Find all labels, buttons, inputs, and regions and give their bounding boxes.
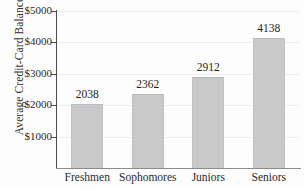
bar-chart: Average Credit-Card Balance $1000$2000$3… bbox=[0, 0, 304, 188]
y-axis-tick-label: $1000 bbox=[6, 130, 52, 142]
bar-value-label: 2362 bbox=[118, 78, 178, 90]
gridline bbox=[57, 11, 299, 12]
bar bbox=[253, 38, 285, 168]
bar-value-label: 4138 bbox=[239, 22, 299, 34]
x-axis-spine bbox=[56, 168, 301, 169]
y-axis-tick-label: $2000 bbox=[6, 98, 52, 110]
y-axis-tick-label: $4000 bbox=[6, 35, 52, 47]
bar-value-label: 2038 bbox=[57, 88, 117, 100]
bar bbox=[71, 104, 103, 168]
bar bbox=[192, 77, 224, 168]
x-axis-tick-label: Seniors bbox=[224, 171, 304, 183]
bar-value-label: 2912 bbox=[178, 61, 238, 73]
y-axis-tick-label: $5000 bbox=[6, 4, 52, 16]
bar bbox=[132, 94, 164, 168]
y-axis-tick-label: $3000 bbox=[6, 67, 52, 79]
